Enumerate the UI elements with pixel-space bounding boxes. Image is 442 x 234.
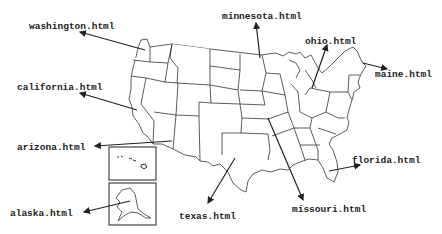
california-link[interactable]: california.html xyxy=(17,82,103,93)
maine-link[interactable]: maine.html xyxy=(375,69,432,80)
contiguous-us xyxy=(129,39,366,192)
ohio-link[interactable]: ohio.html xyxy=(305,36,356,47)
minnesota-link[interactable]: minnesota.html xyxy=(222,11,302,22)
texas-link[interactable]: texas.html xyxy=(179,211,236,222)
us-map[interactable] xyxy=(0,0,442,234)
missouri-link[interactable]: missouri.html xyxy=(292,204,366,215)
florida-link[interactable]: florida.html xyxy=(352,155,420,166)
alaska-link[interactable]: alaska.html xyxy=(10,208,73,219)
arizona-link[interactable]: arizona.html xyxy=(17,142,85,153)
hawaii-inset[interactable] xyxy=(109,147,156,180)
washington-link[interactable]: washington.html xyxy=(29,21,115,32)
